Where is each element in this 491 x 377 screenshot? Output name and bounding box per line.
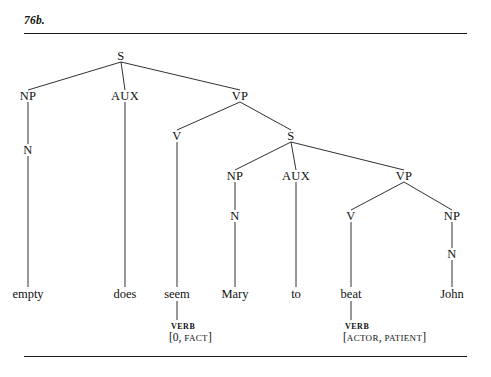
node-v-1: V <box>172 130 181 143</box>
branch-s2-aux2 <box>291 142 296 170</box>
node-aux-1: AUX <box>111 90 139 103</box>
node-v-2: V <box>346 210 355 223</box>
branch-s-np1 <box>28 62 121 90</box>
leaf-john: John <box>440 288 464 301</box>
syntax-tree-figure: 76b. <box>0 0 491 377</box>
node-vp-1: VP <box>232 90 249 103</box>
node-aux-2: AUX <box>282 170 310 183</box>
role-beat-1: PATIENT <box>384 333 422 343</box>
node-vp-2: VP <box>396 170 413 183</box>
node-np-1: NP <box>20 90 37 103</box>
leaf-beat: beat <box>341 288 362 301</box>
leaf-empty: empty <box>12 288 43 301</box>
node-s-root: S <box>117 50 124 63</box>
node-s-2: S <box>287 130 294 143</box>
role-seem-1: FACT <box>184 333 208 343</box>
node-np-3: NP <box>444 210 461 223</box>
leaf-to: to <box>291 288 301 301</box>
role-beat-0: ACTOR <box>347 333 379 343</box>
branch-s-vp1 <box>121 62 240 90</box>
branch-s2-np2 <box>235 142 291 170</box>
tree-branch-lines <box>0 0 491 377</box>
branch-vp1-v1 <box>177 102 240 130</box>
node-np-2: NP <box>227 170 244 183</box>
branch-vp1-s2 <box>240 102 291 130</box>
leaf-does: does <box>114 288 137 301</box>
branch-s-aux1 <box>121 62 125 90</box>
branch-vp2-np3 <box>404 182 452 210</box>
branch-s2-vp2 <box>291 142 404 170</box>
node-n-1: N <box>23 144 32 157</box>
node-n-2: N <box>230 210 239 223</box>
node-n-3: N <box>447 248 456 261</box>
feature-roles-beat: [ACTOR, PATIENT] <box>343 331 426 345</box>
bracket-close-beat: ] <box>422 331 426 343</box>
bracket-close-seem: ] <box>208 331 212 343</box>
leaf-mary: Mary <box>221 288 248 301</box>
feature-roles-seem: [0, FACT] <box>169 331 212 345</box>
feature-category-seem: VERB <box>171 322 195 331</box>
feature-category-beat: VERB <box>345 322 369 331</box>
leaf-seem: seem <box>164 288 190 301</box>
branch-vp2-v2 <box>351 182 404 210</box>
